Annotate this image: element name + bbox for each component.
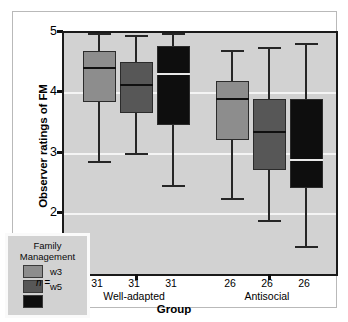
whisker-upper: [268, 47, 270, 99]
y-axis-tick-label: 2: [35, 206, 57, 219]
legend-label: w3: [50, 266, 62, 277]
y-axis-tick-label: 3: [35, 146, 57, 159]
whisker-cap-lower: [162, 185, 185, 187]
whisker-lower: [135, 113, 137, 155]
n-count: 31: [82, 277, 112, 289]
median-line: [290, 159, 323, 161]
whisker-cap-lower: [295, 246, 318, 248]
n-count: 31: [119, 277, 149, 289]
median-line: [216, 98, 249, 100]
whisker-lower: [98, 102, 100, 162]
median-line: [157, 73, 190, 75]
whisker-cap-lower: [258, 220, 281, 222]
n-count: 31: [156, 277, 186, 289]
legend-title-line-2: Management: [11, 251, 84, 262]
whisker-upper: [305, 43, 307, 99]
whisker-lower: [231, 140, 233, 200]
whisker-cap-lower: [88, 161, 111, 163]
whisker-cap-upper: [221, 50, 244, 52]
whisker-cap-upper: [295, 43, 318, 45]
x-axis-title: Group: [0, 303, 348, 315]
box-iqr: [216, 81, 249, 140]
whisker-cap-upper: [88, 33, 111, 35]
whisker-cap-lower: [125, 153, 148, 155]
legend-title: Family Management: [11, 240, 84, 262]
box-iqr: [157, 46, 190, 124]
n-count: 26: [215, 277, 245, 289]
legend-entry: w3: [23, 265, 84, 278]
box-plot-well-adapted-w5: [120, 33, 153, 274]
whisker-cap-upper: [125, 35, 148, 37]
figure: Observer ratings of FM 12345 Family Mana…: [0, 0, 348, 322]
whisker-lower: [305, 188, 307, 248]
whisker-lower: [268, 170, 270, 221]
whisker-upper: [135, 35, 137, 62]
whisker-cap-upper: [162, 33, 185, 35]
box-plot-antisocial-w5: [253, 33, 286, 274]
y-axis-tick-label: 4: [35, 85, 57, 98]
box-iqr: [290, 99, 323, 188]
median-line: [253, 131, 286, 133]
median-line: [83, 67, 116, 69]
group-label-well-adapted: Well-adapted: [74, 290, 194, 302]
plot-panel: [62, 31, 338, 276]
group-label-antisocial: Antisocial: [207, 290, 327, 302]
plot-area: [64, 33, 336, 274]
whisker-lower: [172, 125, 174, 187]
box-plot-well-adapted-w8: [157, 33, 190, 274]
whisker-cap-upper: [258, 47, 281, 49]
n-count: 26: [289, 277, 319, 289]
box-plot-antisocial-w8: [290, 33, 323, 274]
box-iqr: [120, 62, 153, 113]
n-count: 26: [252, 277, 282, 289]
box-iqr: [83, 51, 116, 102]
n-prefix-label: n =: [36, 277, 50, 288]
whisker-upper: [98, 33, 100, 51]
box-iqr: [253, 99, 286, 170]
whisker-upper: [231, 50, 233, 81]
legend-label: w5: [50, 281, 62, 292]
legend-title-line-1: Family: [11, 240, 84, 251]
median-line: [120, 84, 153, 86]
box-plot-antisocial-w3: [216, 33, 249, 274]
y-axis-tick-label: 5: [35, 25, 57, 38]
whisker-cap-lower: [221, 198, 244, 200]
